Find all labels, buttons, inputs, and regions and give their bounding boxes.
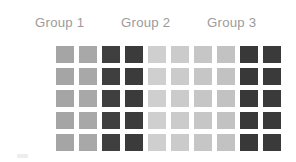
- matrix-cell: [125, 68, 143, 85]
- group-label-2: Group 2: [121, 13, 170, 33]
- matrix-cell: [148, 112, 166, 129]
- matrix-cell: [240, 112, 258, 129]
- cropped-edge-mark: [17, 154, 28, 158]
- matrix-cell: [148, 134, 166, 151]
- matrix-cell: [263, 46, 281, 63]
- matrix-cell: [79, 134, 97, 151]
- matrix-cell: [56, 68, 74, 85]
- matrix-cell: [217, 134, 235, 151]
- matrix-cell: [148, 90, 166, 107]
- matrix-cell: [217, 46, 235, 63]
- matrix-cell: [194, 68, 212, 85]
- matrix-cell: [171, 134, 189, 151]
- matrix-cell: [102, 46, 120, 63]
- matrix-cell: [56, 90, 74, 107]
- matrix-cell: [79, 46, 97, 63]
- matrix-cell: [102, 112, 120, 129]
- group-label-1: Group 1: [35, 13, 84, 33]
- matrix-cell: [263, 68, 281, 85]
- matrix-cell: [56, 134, 74, 151]
- matrix-cell: [240, 90, 258, 107]
- matrix-cell: [263, 112, 281, 129]
- matrix-cell: [171, 68, 189, 85]
- matrix-cell: [79, 112, 97, 129]
- matrix-cell: [102, 90, 120, 107]
- matrix-row: [56, 68, 281, 85]
- matrix-cell: [240, 46, 258, 63]
- group-label-row: Group 1 Group 2 Group 3: [0, 13, 296, 33]
- matrix-cell: [56, 112, 74, 129]
- matrix-cell: [125, 90, 143, 107]
- matrix-cell: [263, 90, 281, 107]
- square-matrix: [56, 46, 281, 151]
- matrix-cell: [79, 68, 97, 85]
- matrix-cell: [125, 46, 143, 63]
- matrix-cell: [217, 90, 235, 107]
- matrix-cell: [240, 68, 258, 85]
- matrix-cell: [79, 90, 97, 107]
- matrix-row: [56, 134, 281, 151]
- matrix-cell: [125, 112, 143, 129]
- matrix-cell: [148, 46, 166, 63]
- group-label-3: Group 3: [207, 13, 256, 33]
- matrix-cell: [102, 134, 120, 151]
- matrix-cell: [217, 112, 235, 129]
- matrix-cell: [194, 90, 212, 107]
- matrix-cell: [171, 112, 189, 129]
- matrix-cell: [217, 68, 235, 85]
- matrix-cell: [171, 46, 189, 63]
- matrix-cell: [240, 134, 258, 151]
- infographic-canvas: Group 1 Group 2 Group 3: [0, 0, 296, 162]
- matrix-row: [56, 46, 281, 63]
- matrix-row: [56, 112, 281, 129]
- matrix-cell: [102, 68, 120, 85]
- matrix-cell: [194, 46, 212, 63]
- matrix-row: [56, 90, 281, 107]
- matrix-cell: [56, 46, 74, 63]
- matrix-cell: [125, 134, 143, 151]
- matrix-cell: [171, 90, 189, 107]
- matrix-cell: [148, 68, 166, 85]
- matrix-cell: [263, 134, 281, 151]
- matrix-cell: [194, 134, 212, 151]
- matrix-cell: [194, 112, 212, 129]
